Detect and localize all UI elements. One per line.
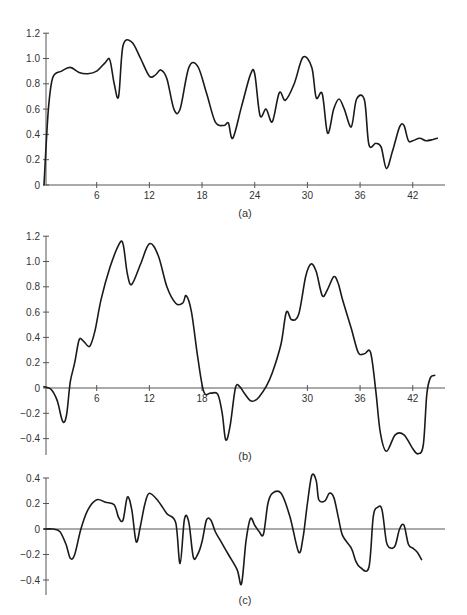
x-tick-label: 24 bbox=[249, 190, 261, 201]
panel-caption: (c) bbox=[239, 594, 252, 606]
y-tick-label: 0.2 bbox=[26, 154, 40, 165]
x-tick-label: 6 bbox=[94, 393, 100, 404]
chart-canvas: 00.20.40.60.81.01.26121824303642(a)−0.4−… bbox=[0, 0, 467, 615]
y-tick-label: 1.0 bbox=[26, 53, 40, 64]
panel-a: 00.20.40.60.81.01.26121824303642(a) bbox=[26, 28, 445, 219]
y-tick-label: −0.2 bbox=[20, 408, 40, 419]
y-tick-label: 1.2 bbox=[26, 28, 40, 39]
x-tick-label: 6 bbox=[94, 190, 100, 201]
y-tick-label: −0.4 bbox=[20, 433, 40, 444]
x-tick-label: 42 bbox=[407, 393, 419, 404]
x-tick-label: 12 bbox=[144, 393, 156, 404]
x-tick-label: 12 bbox=[144, 190, 156, 201]
y-tick-label: 0.4 bbox=[26, 129, 40, 140]
y-tick-label: 0 bbox=[34, 180, 40, 191]
series-line-b bbox=[44, 241, 435, 454]
y-tick-label: 0 bbox=[34, 524, 40, 535]
panel-caption: (a) bbox=[238, 207, 251, 219]
series-line-a bbox=[44, 40, 437, 185]
x-tick-label: 36 bbox=[355, 190, 367, 201]
x-tick-label: 36 bbox=[355, 393, 367, 404]
y-tick-label: 0.8 bbox=[26, 78, 40, 89]
y-tick-label: 0.2 bbox=[26, 357, 40, 368]
x-tick-label: 30 bbox=[302, 393, 314, 404]
panel-c: −0.4−0.200.20.4(c) bbox=[20, 473, 445, 607]
y-tick-label: −0.2 bbox=[20, 549, 40, 560]
y-tick-label: 0 bbox=[34, 383, 40, 394]
y-tick-label: 1.0 bbox=[26, 256, 40, 267]
y-tick-label: 1.2 bbox=[26, 231, 40, 242]
y-tick-label: 0.8 bbox=[26, 281, 40, 292]
y-tick-label: −0.4 bbox=[20, 575, 40, 586]
y-tick-label: 0.4 bbox=[26, 332, 40, 343]
x-tick-label: 42 bbox=[407, 190, 419, 201]
figure: 00.20.40.60.81.01.26121824303642(a)−0.4−… bbox=[0, 0, 467, 615]
y-tick-label: 0.6 bbox=[26, 104, 40, 115]
y-tick-label: 0.2 bbox=[26, 498, 40, 509]
y-tick-label: 0.6 bbox=[26, 307, 40, 318]
panel-b: −0.4−0.200.20.40.60.81.01.261218303642(b… bbox=[20, 231, 445, 462]
x-tick-label: 30 bbox=[302, 190, 314, 201]
y-tick-label: 0.4 bbox=[26, 473, 40, 484]
x-tick-label: 18 bbox=[196, 190, 208, 201]
panel-caption: (b) bbox=[238, 450, 251, 462]
